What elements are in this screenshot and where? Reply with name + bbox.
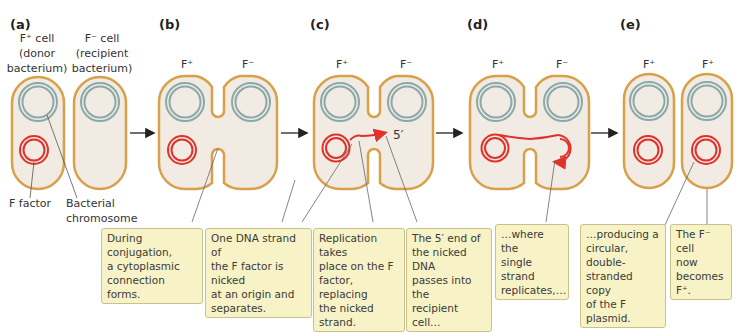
f-plus-cell-left — [624, 74, 674, 188]
callout-line: factor, replacing — [319, 273, 399, 301]
callout-line: Replication takes — [319, 231, 399, 259]
callout-line: …where the — [501, 227, 563, 255]
callout-five-prime-end: The 5′ end of the nicked DNA passes into… — [406, 228, 492, 332]
callout-line: The F⁻ cell — [676, 227, 726, 255]
five-prime-label: 5′ — [393, 128, 403, 143]
bacterial-chromosome-label: Bacterial chromosome — [66, 196, 137, 226]
callout-line: During conjugation, — [107, 231, 197, 259]
conjugating-cells-b — [159, 76, 277, 189]
callout-line: circular, double- — [586, 241, 660, 269]
callout-line: connection forms. — [107, 273, 197, 301]
callout-line: The 5′ end of — [412, 231, 486, 245]
f-factor-label: F factor — [9, 196, 51, 211]
callout-line: now — [676, 255, 726, 269]
callout-replication: Replication takes place on the F factor,… — [313, 228, 405, 332]
callout-line: replicates,… — [501, 283, 563, 297]
callout-becomes-f-plus: The F⁻ cell now becomes F⁺. — [670, 224, 732, 300]
callout-line: separates. — [211, 301, 306, 315]
callout-line: the F factor is nicked — [211, 259, 306, 287]
callout-line: at an origin and — [211, 287, 306, 301]
callout-line: the nicked strand. — [319, 301, 399, 329]
callout-cytoplasmic-connection: During conjugation, a cytoplasmic connec… — [101, 228, 203, 304]
callout-line: One DNA strand of — [211, 231, 306, 259]
callout-line: stranded copy — [586, 269, 660, 297]
callout-line: single strand — [501, 255, 563, 283]
callout-single-strand-replicates: …where the single strand replicates,… — [495, 224, 569, 300]
callout-line: recipient cell… — [412, 301, 486, 329]
chromosome-label-line2: chromosome — [66, 211, 137, 226]
conjugating-cells-d — [470, 76, 589, 189]
callout-line: the nicked DNA — [412, 245, 486, 273]
callout-line: place on the F — [319, 259, 399, 273]
callout-line: a cytoplasmic — [107, 259, 197, 273]
chromosome-label-line1: Bacterial — [66, 196, 137, 211]
callout-line: passes into the — [412, 273, 486, 301]
donor-cell — [12, 77, 64, 189]
conjugating-cells-c — [314, 76, 433, 189]
callout-line: of the F plasmid. — [586, 297, 660, 325]
callout-line: becomes F⁺. — [676, 269, 726, 297]
recipient-cell — [74, 77, 126, 189]
callout-dna-nicked: One DNA strand of the F factor is nicked… — [205, 228, 312, 318]
callout-line: …producing a — [586, 227, 660, 241]
callout-double-stranded-copy: …producing a circular, double- stranded … — [580, 224, 666, 328]
